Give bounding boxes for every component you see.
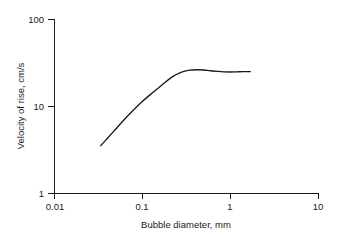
x-axis-title: Bubble diameter, mm [141,219,231,230]
y-axis-ticks [48,19,54,193]
x-tick-label-10: 10 [313,201,324,212]
y-axis-title: Velocity of rise, cm/s [15,62,26,149]
y-tick-label-100: 100 [28,14,44,25]
y-tick-label-10: 10 [33,101,44,112]
x-axis-ticks [54,193,318,199]
x-axis-tick-labels: 0.01 0.1 1 10 [46,201,324,212]
x-tick-label-0-1: 0.1 [135,201,148,212]
x-tick-label-1: 1 [227,201,232,212]
log-log-plot: 100 10 1 0.01 0.1 1 10 Bubble diameter, … [0,0,340,236]
velocity-of-rise-curve [101,70,251,146]
y-tick-label-1: 1 [39,188,44,199]
x-tick-label-0-01: 0.01 [46,201,65,212]
chart-figure: 100 10 1 0.01 0.1 1 10 Bubble diameter, … [0,0,340,236]
y-axis-tick-labels: 100 10 1 [28,14,44,199]
